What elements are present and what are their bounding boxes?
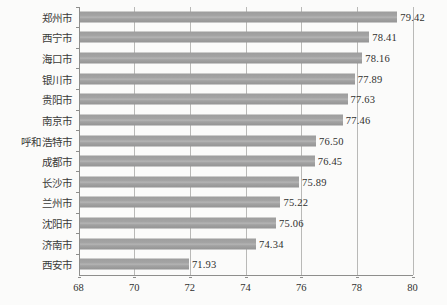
y-axis-tick-mark [76,151,79,152]
y-axis-tick-mark [76,233,79,234]
bar [80,11,398,22]
category-label: 银川市 [0,71,73,86]
y-axis-tick-mark [76,68,79,69]
bar-value-label: 74.34 [259,238,284,249]
y-axis-tick-mark [76,130,79,131]
x-axis-tick-label: 80 [407,282,418,293]
category-label: 西宁市 [0,30,73,45]
bar-value-label: 76.50 [319,135,344,146]
bar-value-label: 75.06 [279,217,304,228]
bar [80,156,315,167]
category-label: 郑州市 [0,9,73,24]
y-axis-tick-mark [76,89,79,90]
bar [80,32,370,43]
bar-value-label: 77.63 [351,94,376,105]
gridline [357,7,358,275]
category-label: 济南市 [0,236,73,251]
bar-value-label: 78.41 [372,32,397,43]
x-axis-tick-label: 74 [240,282,251,293]
y-axis-tick-mark [76,192,79,193]
bar [80,73,355,84]
bar [80,197,281,208]
bar-value-label: 71.93 [192,259,217,270]
category-label: 海口市 [0,51,73,66]
x-axis-tick-mark [78,277,81,278]
bar-value-label: 77.89 [358,73,383,84]
x-axis-tick-mark [412,277,415,278]
category-label: 南京市 [0,112,73,127]
category-label: 贵阳市 [0,92,73,107]
bar [80,217,277,228]
x-axis-line [79,275,413,276]
y-axis-tick-mark [76,110,79,111]
category-label: 长沙市 [0,174,73,189]
y-axis-tick-mark [76,254,79,255]
x-axis-tick-label: 68 [73,282,84,293]
bar [80,238,256,249]
x-axis-tick-label: 72 [185,282,196,293]
bar [80,176,300,187]
category-label: 西安市 [0,257,73,272]
y-axis-tick-mark [76,48,79,49]
bar [80,53,363,64]
y-axis-tick-mark [76,171,79,172]
x-axis-tick-mark [356,277,359,278]
horizontal-bar-chart: 郑州市西宁市海口市银川市贵阳市南京市呼和浩特市成都市长沙市兰州市沈阳市济南市西安… [0,0,447,305]
category-label: 成都市 [0,154,73,169]
category-label: 呼和浩特市 [0,133,73,148]
bar-value-label: 75.89 [302,176,327,187]
bar-value-label: 77.46 [346,114,371,125]
x-axis-tick-mark [189,277,192,278]
category-label: 兰州市 [0,195,73,210]
bar-value-label: 79.42 [400,11,425,22]
category-label: 沈阳市 [0,215,73,230]
bar-value-label: 75.22 [283,197,308,208]
gridline [413,7,414,275]
y-axis-tick-mark [76,213,79,214]
bar [80,135,317,146]
x-axis-tick-label: 78 [352,282,363,293]
x-axis-tick-mark [300,277,303,278]
x-axis-tick-mark [245,277,248,278]
x-axis-tick-label: 70 [129,282,140,293]
x-axis-tick-mark [133,277,136,278]
x-axis-tick-label: 76 [296,282,307,293]
bar [80,94,348,105]
bar-value-label: 76.45 [318,156,343,167]
bar [80,114,343,125]
y-axis-tick-mark [76,7,79,8]
bar [80,259,189,270]
bar-value-label: 78.16 [365,53,390,64]
y-axis-tick-mark [76,27,79,28]
